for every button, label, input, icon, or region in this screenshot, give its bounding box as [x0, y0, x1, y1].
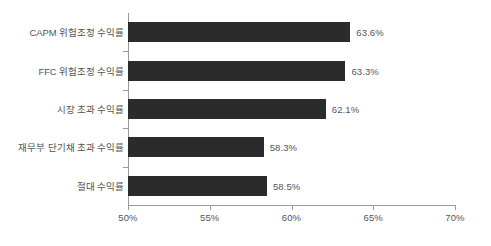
value-axis-tick-label: 55%: [200, 212, 219, 223]
category-label: 절대 수익률: [77, 179, 124, 193]
bar: [128, 137, 264, 157]
bar-group: 58.3%: [128, 137, 455, 157]
category-label-slot: 재무부 단기채 초과 수익률: [0, 137, 124, 157]
bar: [128, 176, 267, 196]
category-label-slot: CAPM 위험조정 수익률: [0, 22, 124, 42]
category-axis-tick: [123, 167, 128, 168]
value-axis-tick-label: 50%: [118, 212, 137, 223]
bar-value-label: 58.3%: [270, 142, 297, 153]
category-label: 재무부 단기채 초과 수익률: [18, 140, 124, 154]
value-axis-tick: [373, 205, 374, 210]
category-axis-tick: [123, 51, 128, 52]
value-axis-tick: [292, 205, 293, 210]
value-axis-tick-label: 60%: [282, 212, 301, 223]
bar-group: 63.6%: [128, 22, 455, 42]
value-axis-tick: [455, 205, 456, 210]
bar: [128, 22, 350, 42]
bar: [128, 61, 345, 81]
category-axis-tick: [123, 128, 128, 129]
bar-group: 58.5%: [128, 176, 455, 196]
category-label: 시장 초과 수익률: [57, 102, 124, 116]
value-axis-tick-label: 65%: [364, 212, 383, 223]
category-label: FFC 위험조정 수익률: [38, 64, 124, 78]
bar: [128, 99, 326, 119]
bar-group: 63.3%: [128, 61, 455, 81]
category-axis-tick: [123, 90, 128, 91]
category-label-slot: 절대 수익률: [0, 176, 124, 196]
bar-group: 62.1%: [128, 99, 455, 119]
category-label-slot: FFC 위험조정 수익률: [0, 61, 124, 81]
value-axis-tick: [128, 205, 129, 210]
bar-value-label: 63.6%: [356, 27, 383, 38]
category-label-slot: 시장 초과 수익률: [0, 99, 124, 119]
bar-chart: 63.6%CAPM 위험조정 수익률63.3%FFC 위험조정 수익률62.1%…: [0, 0, 491, 246]
value-axis-tick-label: 70%: [445, 212, 464, 223]
bar-value-label: 62.1%: [332, 104, 359, 115]
bar-value-label: 58.5%: [273, 180, 300, 191]
category-label: CAPM 위험조정 수익률: [30, 25, 124, 39]
bar-value-label: 63.3%: [351, 65, 378, 76]
value-axis-tick: [210, 205, 211, 210]
